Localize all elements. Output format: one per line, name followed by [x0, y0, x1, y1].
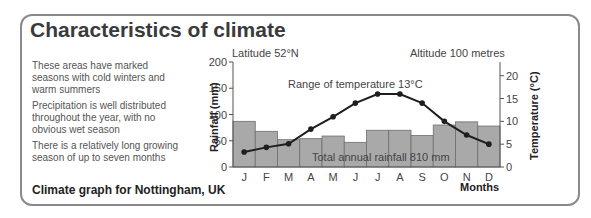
temperature-point [486, 141, 492, 147]
temperature-point [330, 114, 336, 120]
x-tick-label: J [241, 171, 247, 183]
y2-tick-label: 20 [506, 70, 518, 82]
temperature-point [308, 126, 314, 132]
y-tick-label: 0 [221, 161, 227, 173]
temperature-point [375, 91, 381, 97]
x-tick-label: J [353, 171, 359, 183]
y2-tick-label: 5 [506, 138, 512, 150]
temperature-point [241, 149, 247, 155]
altitude-label: Altitude 100 metres [410, 47, 505, 59]
y2-axis-title: Temperature (°C) [528, 71, 540, 160]
temperature-range-label: Range of temperature 13°C [288, 78, 423, 90]
temperature-point [419, 100, 425, 106]
rainfall-bar [456, 122, 478, 167]
x-tick-label: A [396, 171, 404, 183]
x-tick-label: O [440, 171, 449, 183]
x-tick-label: M [284, 171, 293, 183]
rainfall-bar [233, 121, 255, 167]
temperature-point [464, 132, 470, 138]
latitude-label: Latitude 52°N [232, 47, 299, 59]
temperature-point [264, 145, 270, 151]
x-axis-title: Months [460, 181, 499, 193]
x-tick-label: M [329, 171, 338, 183]
total-rainfall-label: Total annual rainfall 810 mm [312, 151, 450, 163]
x-tick-label: F [263, 171, 270, 183]
y-tick-label: 200 [209, 56, 227, 68]
y2-tick-label: 10 [506, 115, 518, 127]
temperature-point [442, 119, 448, 125]
x-tick-label: J [375, 171, 381, 183]
temperature-point [397, 91, 403, 97]
y2-tick-label: 15 [506, 93, 518, 105]
temperature-point [353, 100, 359, 106]
y2-tick-label: 0 [506, 161, 512, 173]
x-tick-label: S [418, 171, 425, 183]
temperature-point [286, 141, 292, 147]
x-tick-label: A [307, 171, 315, 183]
y-axis-title: Rainfall (mm) [208, 82, 220, 152]
climate-chart: 05010015020005101520JFMAMJJASOND Latitud… [0, 0, 591, 218]
